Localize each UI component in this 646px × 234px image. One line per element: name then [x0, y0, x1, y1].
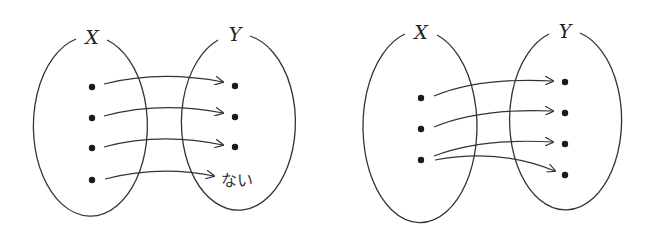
- mapping-arrow: [434, 111, 553, 127]
- codomain-point: [232, 144, 238, 150]
- mapping-arrow: [434, 80, 553, 96]
- mapping-arrow: [434, 141, 553, 156]
- set-x-ellipse: [33, 39, 147, 216]
- domain-point: [89, 115, 95, 121]
- mapping-arrow: [105, 171, 214, 179]
- set-x-label: X: [412, 21, 429, 43]
- set-y-label: Y: [229, 23, 244, 45]
- mapping-arrow: [435, 156, 555, 171]
- diagram-left: X Y ない: [33, 23, 295, 216]
- diagram-canvas: X Y ない X Y: [0, 0, 646, 234]
- mapping-arrow: [104, 108, 223, 116]
- codomain-point: [562, 79, 568, 85]
- set-x-label: X: [83, 26, 100, 48]
- undefined-target-label: ない: [221, 171, 253, 190]
- mapping-arrow: [104, 139, 223, 147]
- domain-point: [418, 157, 424, 163]
- domain-point: [89, 84, 95, 90]
- codomain-point: [562, 110, 568, 116]
- domain-point: [418, 95, 424, 101]
- domain-point: [89, 145, 95, 151]
- domain-point: [89, 177, 95, 183]
- diagram-right: X Y: [363, 20, 622, 223]
- codomain-point: [562, 141, 568, 147]
- mapping-arrow: [104, 76, 223, 84]
- set-y-label: Y: [559, 20, 574, 42]
- codomain-point: [562, 172, 568, 178]
- set-y-ellipse: [510, 33, 622, 210]
- codomain-point: [232, 114, 238, 120]
- domain-point: [418, 126, 424, 132]
- codomain-point: [232, 83, 238, 89]
